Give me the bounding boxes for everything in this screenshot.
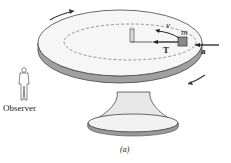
mass-block — [178, 37, 187, 46]
rotating-table-diagram: v m T a Observer (a) — [0, 0, 231, 163]
tension-label: T — [163, 45, 169, 55]
figure-caption: (a) — [120, 145, 130, 154]
person-figure-icon — [19, 68, 29, 100]
pedestal — [88, 92, 178, 136]
turntable — [38, 10, 202, 83]
acceleration-label: a — [201, 46, 206, 56]
observer-label: Observer — [3, 103, 36, 113]
velocity-label: v — [166, 20, 170, 30]
center-post — [130, 28, 134, 42]
rotation-arrowhead-top-icon — [69, 9, 74, 14]
mass-label: m — [181, 27, 188, 37]
